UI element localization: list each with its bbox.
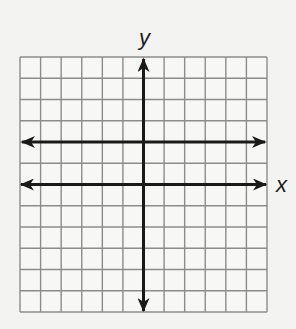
x-axis-label: x: [276, 174, 287, 196]
y-axis-label: y: [139, 27, 150, 49]
